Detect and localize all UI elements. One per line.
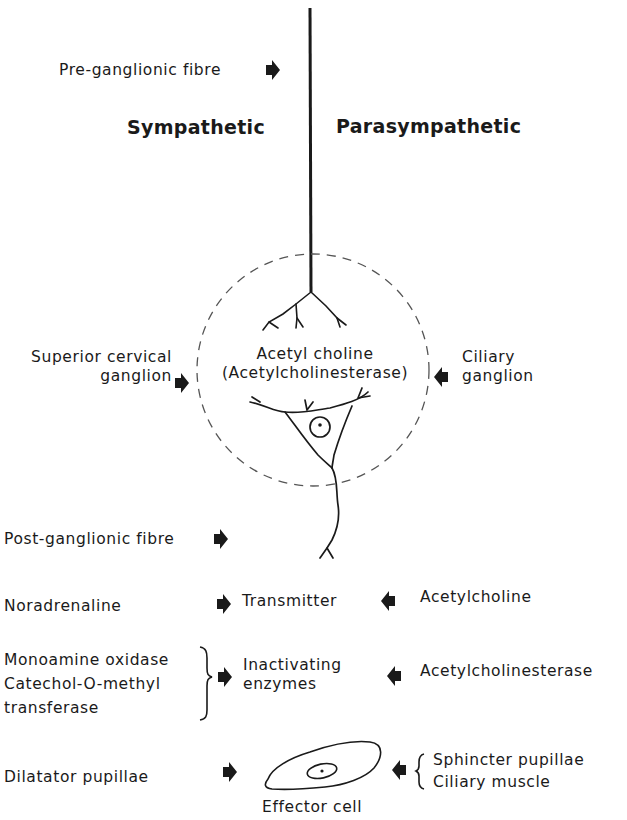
parasympathetic-transmitter: Acetylcholine — [420, 588, 532, 607]
nucleolus — [318, 423, 322, 427]
transmitter-label: Transmitter — [242, 592, 337, 611]
sympathetic-effector: Dilatator pupillae — [4, 768, 149, 787]
arrow-right-icon — [266, 60, 280, 80]
inactivating-line2: enzymes — [243, 675, 342, 694]
sympathetic-heading: Sympathetic — [127, 116, 265, 138]
parasympathetic-heading: Parasympathetic — [336, 115, 521, 137]
synapse-enzyme: (Acetylcholinesterase) — [210, 364, 420, 383]
sphincter-pupillae: Sphincter pupillae — [433, 749, 584, 771]
effector-cell-label: Effector cell — [262, 798, 362, 817]
arrow-right-icon — [175, 373, 189, 393]
ciliary-ganglion-line1: Ciliary — [462, 348, 534, 367]
effector-nucleolus — [320, 769, 323, 772]
effector-cell — [265, 742, 380, 790]
parasympathetic-effectors: Sphincter pupillae Ciliary muscle — [433, 749, 584, 793]
inactivating-enzymes-label: Inactivating enzymes — [243, 656, 342, 695]
synapse-label: Acetyl choline (Acetylcholinesterase) — [210, 345, 420, 384]
post-ganglionic-label: Post-ganglionic fibre — [4, 530, 174, 549]
enzymes-bracket — [200, 647, 212, 720]
parasympathetic-enzyme: Acetylcholinesterase — [420, 662, 593, 681]
superior-cervical-line2: ganglion — [31, 367, 172, 386]
arrow-left-icon — [392, 760, 406, 780]
enzyme-mao: Monoamine oxidase — [4, 648, 169, 672]
arrow-right-icon — [217, 594, 231, 614]
arrow-left-icon — [387, 666, 401, 686]
sympathetic-enzymes: Monoamine oxidase Catechol-O-methyl tran… — [4, 648, 169, 720]
superior-cervical-ganglion-label: Superior cervical ganglion — [31, 348, 172, 387]
enzyme-comt-2: transferase — [4, 696, 169, 720]
arrow-right-icon — [223, 762, 237, 782]
ciliary-ganglion-line2: ganglion — [462, 367, 534, 386]
arrow-right-icon — [218, 667, 232, 687]
ciliary-muscle: Ciliary muscle — [433, 771, 584, 793]
muscles-bracket — [416, 754, 424, 789]
ganglion-neuron — [250, 388, 370, 558]
enzyme-comt-1: Catechol-O-methyl — [4, 672, 169, 696]
synapse-transmitter: Acetyl choline — [210, 345, 420, 364]
arrow-left-icon — [434, 367, 448, 387]
pre-ganglionic-label: Pre-ganglionic fibre — [59, 61, 221, 80]
superior-cervical-line1: Superior cervical — [31, 348, 172, 367]
arrow-left-icon — [381, 591, 395, 611]
axon-terminal-branches — [263, 292, 346, 330]
pre-ganglionic-fibre-line — [310, 8, 311, 292]
sympathetic-transmitter: Noradrenaline — [4, 597, 121, 616]
inactivating-line1: Inactivating — [243, 656, 342, 675]
ciliary-ganglion-label: Ciliary ganglion — [462, 348, 534, 387]
arrow-right-icon — [214, 529, 228, 549]
